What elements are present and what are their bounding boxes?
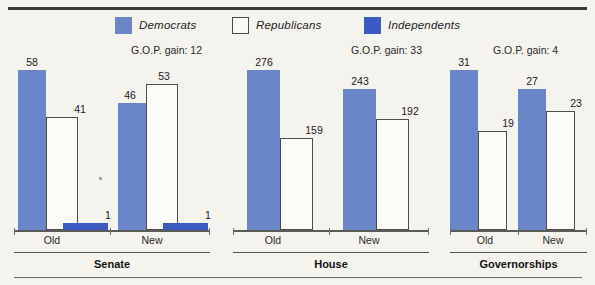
section-divider-house xyxy=(233,252,429,253)
tick-mark xyxy=(518,228,519,235)
bar-gov-old-republicans xyxy=(478,131,507,230)
panel-governorships: 31 19 27 23 xyxy=(450,60,587,232)
section-divider-governorships xyxy=(450,252,587,253)
group-house-new: 243 192 xyxy=(329,60,425,230)
group-house-old: 276 159 xyxy=(233,60,329,230)
group-gov-old: 31 19 xyxy=(450,60,518,230)
legend-swatch-republicans-icon xyxy=(232,17,249,34)
chart-legend: Democrats Republicans Independents xyxy=(0,14,595,36)
tick-mark xyxy=(14,228,15,235)
annotation-gop-gain-house: G.O.P. gain: 33 xyxy=(351,44,422,56)
legend-label-independents: Independents xyxy=(388,19,460,31)
bottom-divider xyxy=(14,277,582,278)
tick-label-senate-new: New xyxy=(132,234,172,246)
group-gov-new: 27 23 xyxy=(518,60,586,230)
scan-speck xyxy=(99,177,102,180)
section-title-senate: Senate xyxy=(14,258,210,270)
legend-item-democrats: Democrats xyxy=(115,14,196,36)
bar-senate-old-independents xyxy=(63,223,108,230)
legend-item-republicans: Republicans xyxy=(232,14,322,36)
bar-house-old-republicans xyxy=(280,138,313,230)
group-senate-new: 46 53 1 xyxy=(114,60,210,230)
value-house-new-republicans: 192 xyxy=(389,105,431,117)
tick-label-house-new: New xyxy=(349,234,389,246)
section-title-governorships: Governorships xyxy=(450,258,587,270)
value-house-new-democrats: 243 xyxy=(339,75,381,87)
bar-gov-new-republicans xyxy=(546,111,575,230)
legend-swatch-independents-icon xyxy=(364,17,381,34)
bar-house-new-republicans xyxy=(376,119,409,230)
panel-house: 276 159 243 192 xyxy=(233,60,429,232)
axis-tick-row: Old New Old New Old New xyxy=(0,234,595,250)
tick-mark xyxy=(586,228,587,235)
tick-label-house-old: Old xyxy=(253,234,293,246)
bar-gov-new-democrats xyxy=(518,89,546,230)
value-senate-new-democrats: 46 xyxy=(112,89,148,101)
tick-mark xyxy=(209,228,210,235)
baseline-senate xyxy=(14,230,210,232)
bar-senate-new-independents xyxy=(163,223,208,230)
bar-senate-new-republicans xyxy=(146,84,178,230)
top-divider xyxy=(8,7,587,10)
annotation-gop-gain-senate: G.O.P. gain: 12 xyxy=(131,44,202,56)
value-senate-old-democrats: 58 xyxy=(14,56,50,68)
tick-label-gov-old: Old xyxy=(465,234,505,246)
election-bar-chart: Democrats Republicans Independents G.O.P… xyxy=(0,0,595,285)
value-senate-old-republicans: 41 xyxy=(62,103,98,115)
section-title-house: House xyxy=(233,258,429,270)
plot-area: 58 41 1 46 53 1 276 xyxy=(0,60,595,232)
bar-senate-old-republicans xyxy=(46,117,78,230)
annotation-gop-gain-governorships: G.O.P. gain: 4 xyxy=(493,44,558,56)
value-house-old-democrats: 276 xyxy=(243,56,285,68)
tick-label-senate-old: Old xyxy=(32,234,72,246)
panel-senate: 58 41 1 46 53 1 xyxy=(14,60,210,232)
bar-senate-old-democrats xyxy=(18,70,46,230)
bar-gov-old-democrats xyxy=(450,70,478,230)
tick-mark xyxy=(329,228,330,235)
bar-house-old-democrats xyxy=(247,70,280,230)
legend-label-republicans: Republicans xyxy=(256,19,322,31)
tick-mark xyxy=(110,228,111,235)
section-divider-senate xyxy=(14,252,210,253)
tick-mark xyxy=(450,228,451,235)
tick-label-gov-new: New xyxy=(533,234,573,246)
tick-mark xyxy=(428,228,429,235)
value-senate-new-republicans: 53 xyxy=(146,70,182,82)
group-senate-old: 58 41 1 xyxy=(14,60,110,230)
baseline-house xyxy=(233,230,429,232)
tick-mark xyxy=(233,228,234,235)
bar-senate-new-democrats xyxy=(118,103,146,230)
value-gov-old-democrats: 31 xyxy=(446,56,482,68)
value-gov-new-republicans: 23 xyxy=(558,97,594,109)
legend-label-democrats: Democrats xyxy=(139,19,196,31)
bar-house-new-democrats xyxy=(343,89,376,230)
legend-item-independents: Independents xyxy=(364,14,460,36)
legend-swatch-democrats-icon xyxy=(115,17,132,34)
value-gov-new-democrats: 27 xyxy=(514,75,550,87)
value-senate-new-independents: 1 xyxy=(193,209,223,221)
